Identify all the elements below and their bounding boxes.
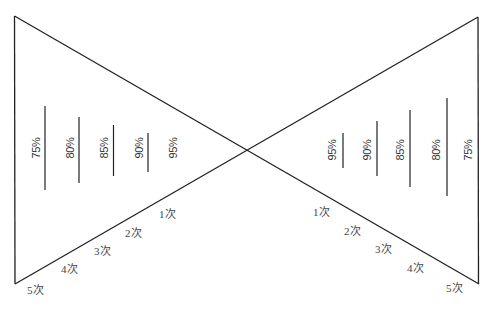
left-percent-label: 90% xyxy=(134,137,145,158)
left-percent-label: 95% xyxy=(168,137,179,158)
right-times-label: 1次 xyxy=(313,207,330,218)
left-times-label: 2次 xyxy=(125,228,142,239)
right-triangle-vertical-edge xyxy=(478,17,479,284)
right-percent-label: 75% xyxy=(463,139,474,160)
right-percent-label: 95% xyxy=(327,139,338,160)
left-triangle-vertical-edge xyxy=(15,16,16,284)
right-times-label: 2次 xyxy=(344,226,361,237)
right-times-label: 4次 xyxy=(407,263,424,274)
right-percent-label: 80% xyxy=(431,139,442,160)
right-triangle xyxy=(478,17,479,284)
right-times-label: 3次 xyxy=(375,244,392,255)
left-times-label: 4次 xyxy=(61,264,78,275)
left-times-label: 5次 xyxy=(27,285,44,296)
left-percent-label: 80% xyxy=(65,137,76,158)
left-times-label: 3次 xyxy=(94,246,111,257)
right-percent-label: 85% xyxy=(395,139,406,160)
right-times-label: 5次 xyxy=(446,283,463,294)
left-times-label: 1次 xyxy=(159,209,176,220)
left-triangle xyxy=(15,16,480,284)
left-percent-label: 75% xyxy=(31,137,42,158)
left-percent-label: 85% xyxy=(99,137,110,158)
right-percent-label: 90% xyxy=(362,139,373,160)
